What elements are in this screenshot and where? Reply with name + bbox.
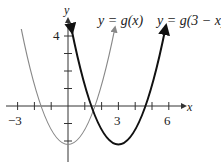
tick-label-6: 6 (164, 113, 171, 128)
legend-g-x: y = g(x) (96, 13, 144, 29)
chart-svg: y x 4 −3 3 6 y = g(x) y = g(3 − x) (0, 0, 221, 164)
x-axis-label: x (186, 100, 193, 114)
legend-g-3-minus-x: y = g(3 − x) (155, 13, 221, 29)
tick-label-4: 4 (53, 28, 60, 43)
y-axis-label: y (63, 3, 70, 17)
tick-label-neg3: −3 (8, 113, 22, 128)
chart: y x 4 −3 3 6 y = g(x) y = g(3 − x) (0, 0, 221, 164)
tick-label-3: 3 (114, 113, 121, 128)
